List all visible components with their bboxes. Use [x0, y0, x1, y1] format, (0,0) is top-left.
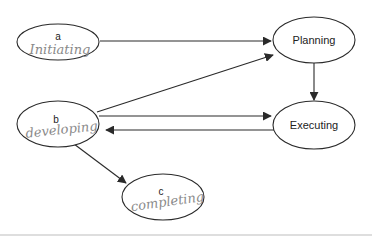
node-planning: Planning	[273, 17, 355, 63]
node-a-annotation: Initiating	[29, 42, 91, 57]
node-a: a Initiating	[17, 24, 99, 60]
node-b: b developing	[17, 101, 99, 147]
node-executing: Executing	[273, 101, 355, 149]
process-diagram: a Initiating b developing c completing P…	[0, 0, 372, 240]
node-a-label: a	[55, 31, 61, 42]
node-c: c completing	[122, 174, 205, 220]
node-executing-label: Executing	[290, 119, 338, 131]
node-planning-label: Planning	[293, 34, 336, 46]
edge-b-to-planning	[97, 55, 273, 112]
edge-b-to-c	[74, 144, 126, 183]
